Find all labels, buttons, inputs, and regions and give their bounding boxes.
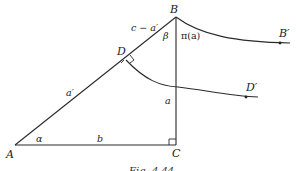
label-alpha: α bbox=[36, 133, 43, 144]
side-AB bbox=[15, 17, 176, 145]
label-D: D bbox=[116, 45, 126, 58]
label-a: a bbox=[165, 95, 171, 106]
label-pi-of-a: π(a) bbox=[181, 30, 200, 41]
right-angle-mark-D bbox=[130, 55, 134, 63]
label-beta: β bbox=[162, 30, 169, 41]
label-c-minus-a-prime: c − a′ bbox=[131, 22, 159, 33]
figure-caption: Fig. 4.44 bbox=[128, 165, 174, 171]
label-B: B bbox=[169, 3, 178, 16]
label-D-prime: D′ bbox=[245, 81, 258, 94]
curve-D-to-D-prime bbox=[126, 60, 258, 97]
right-angle-mark-C bbox=[169, 139, 176, 145]
label-b: b bbox=[97, 133, 103, 144]
label-B-prime: B′ bbox=[278, 27, 290, 40]
hyperbolic-triangle-figure: A B C D B′ D′ c − a′ a′ a b α β π(a) Fig… bbox=[0, 0, 296, 171]
label-C: C bbox=[172, 147, 181, 160]
point-D-prime bbox=[245, 96, 248, 99]
point-B-prime bbox=[279, 42, 282, 45]
label-a-prime: a′ bbox=[66, 87, 75, 98]
diagram-canvas: A B C D B′ D′ c − a′ a′ a b α β π(a) Fig… bbox=[0, 0, 296, 171]
label-A: A bbox=[5, 148, 14, 161]
